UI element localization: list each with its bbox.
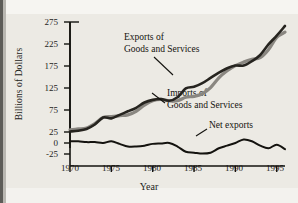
chart-plot-area <box>0 0 298 203</box>
figure-page: Billions of Dollars 275 225 175 125 75 2… <box>0 0 298 203</box>
